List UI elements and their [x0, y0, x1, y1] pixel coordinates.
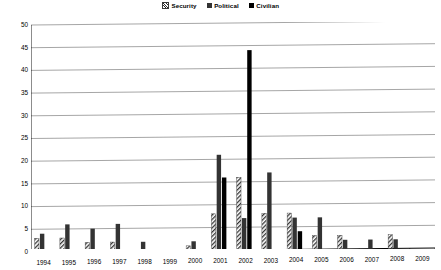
y-axis-tick-label: 5 — [2, 226, 28, 232]
y-axis-tick-label: 0 — [2, 249, 28, 255]
bar-political-1996 — [90, 229, 94, 249]
bar-political-2006 — [343, 240, 347, 249]
x-axis-tick-label: 2004 — [284, 256, 309, 263]
gridline — [31, 22, 435, 25]
bar-political-1998 — [141, 242, 145, 249]
gridline — [31, 112, 435, 116]
bar-chart: Security Political Civilian 051015202530… — [0, 0, 441, 270]
y-axis-tick-label: 25 — [2, 135, 28, 141]
bar-political-2005 — [318, 217, 322, 249]
y-axis-tick-label: 50 — [2, 22, 28, 28]
bar-security-2006 — [338, 235, 342, 249]
x-axis-tick-label: 2007 — [359, 256, 384, 263]
gridline — [31, 157, 435, 161]
gridline — [31, 44, 435, 48]
bar-security-2002 — [237, 177, 241, 249]
x-axis-tick-label: 2005 — [309, 256, 334, 263]
plot-area — [31, 22, 435, 249]
gridline — [31, 180, 435, 184]
bar-political-2008 — [393, 239, 397, 248]
bar-political-1994 — [40, 234, 44, 249]
gridline — [31, 135, 435, 139]
bar-civilian-2002 — [247, 50, 251, 249]
x-axis-tick-label: 2002 — [233, 257, 258, 264]
political-swatch-icon — [207, 3, 212, 8]
x-axis-tick-label: 2003 — [258, 257, 283, 264]
gridlines — [31, 22, 435, 249]
y-axis-tick-label: 35 — [2, 90, 28, 96]
bar-political-1995 — [65, 224, 69, 249]
x-axis-tick-label: 2006 — [334, 256, 359, 263]
legend-item-civilian: Civilian — [249, 2, 279, 9]
y-axis-tick-label: 15 — [2, 181, 28, 187]
bar-security-1994 — [35, 238, 39, 249]
y-axis-tick-label: 30 — [2, 113, 28, 119]
x-axis-tick-label: 1999 — [157, 258, 182, 265]
x-axis-tick-label: 2000 — [183, 257, 208, 264]
gridline — [31, 66, 435, 70]
bar-political-2002 — [242, 218, 246, 249]
bar-political-2001 — [217, 155, 221, 249]
bar-security-2008 — [388, 235, 392, 249]
plot-svg — [31, 22, 435, 249]
bar-security-1996 — [85, 242, 89, 249]
bar-political-2003 — [267, 172, 271, 249]
y-axis-tick-labels: 05101520253035404550 — [0, 22, 28, 249]
y-axis-tick-label: 45 — [2, 45, 28, 51]
chart-legend: Security Political Civilian — [0, 2, 441, 9]
bar-group-container — [35, 50, 398, 249]
x-axis-tick-label: 1994 — [31, 259, 56, 266]
bar-security-1995 — [60, 238, 64, 249]
bar-political-2004 — [292, 218, 296, 249]
legend-label-political: Political — [214, 2, 239, 9]
bar-civilian-2001 — [222, 177, 226, 249]
bar-security-2004 — [287, 213, 291, 249]
bar-political-2000 — [191, 241, 195, 249]
gridline — [31, 203, 435, 207]
x-axis-tick-label: 1998 — [132, 258, 157, 265]
legend-label-civilian: Civilian — [256, 2, 279, 9]
y-axis-tick-label: 10 — [2, 203, 28, 209]
legend-item-political: Political — [207, 2, 239, 9]
bar-security-1997 — [110, 242, 114, 249]
bar-security-2005 — [312, 236, 316, 250]
bar-security-2001 — [211, 214, 215, 249]
bar-security-2000 — [186, 246, 190, 249]
x-axis-tick-label: 2009 — [410, 255, 435, 262]
civilian-swatch-icon — [249, 3, 254, 8]
security-swatch-icon — [162, 2, 169, 9]
legend-item-security: Security — [162, 2, 197, 9]
y-axis-tick-label: 40 — [2, 67, 28, 73]
legend-label-security: Security — [171, 2, 196, 9]
gridline — [31, 89, 435, 93]
x-axis-tick-label: 1997 — [107, 258, 132, 265]
x-axis-tick-label: 2001 — [208, 257, 233, 264]
bar-civilian-2004 — [298, 231, 302, 249]
x-axis-tick-labels: 1994199519961997199819992000200120022003… — [31, 253, 435, 267]
x-axis-tick-label: 2008 — [385, 255, 410, 262]
bar-security-2003 — [262, 213, 266, 249]
x-axis-tick-label: 1995 — [56, 259, 81, 266]
x-axis-tick-label: 1996 — [82, 258, 107, 265]
bar-political-1997 — [116, 224, 120, 249]
bar-political-2007 — [368, 240, 372, 249]
y-axis-tick-label: 20 — [2, 158, 28, 164]
